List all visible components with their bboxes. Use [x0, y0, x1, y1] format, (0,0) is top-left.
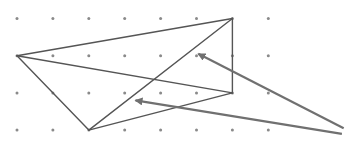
grid-dot — [87, 54, 90, 57]
grid-dot — [267, 54, 270, 57]
grid-dot — [87, 91, 90, 94]
grid-dot — [267, 129, 270, 132]
grid-dot — [51, 17, 54, 20]
grid-dot — [231, 129, 234, 132]
grid-dot — [195, 91, 198, 94]
grid-dot — [123, 91, 126, 94]
grid-dot — [267, 17, 270, 20]
polygon-edge — [17, 56, 232, 93]
grid-dot — [159, 17, 162, 20]
grid-dot — [159, 129, 162, 132]
grid-dot — [51, 54, 54, 57]
grid-dot — [16, 129, 19, 132]
grid-dot — [123, 54, 126, 57]
grid-dot — [123, 129, 126, 132]
polygon-edges — [17, 19, 232, 131]
grid-dot — [159, 91, 162, 94]
grid-dot — [16, 91, 19, 94]
grid-dot — [267, 91, 270, 94]
grid-dot — [195, 17, 198, 20]
grid-dot — [123, 17, 126, 20]
grid-dot — [195, 129, 198, 132]
grid-dot — [51, 129, 54, 132]
grid-dot — [159, 54, 162, 57]
dot-grid-diagram — [0, 0, 356, 157]
grid-dot — [195, 54, 198, 57]
grid-dot — [87, 17, 90, 20]
polygon-edge — [17, 19, 232, 56]
arrows — [135, 54, 343, 134]
arrow-lower — [135, 100, 341, 133]
grid-dot — [16, 17, 19, 20]
